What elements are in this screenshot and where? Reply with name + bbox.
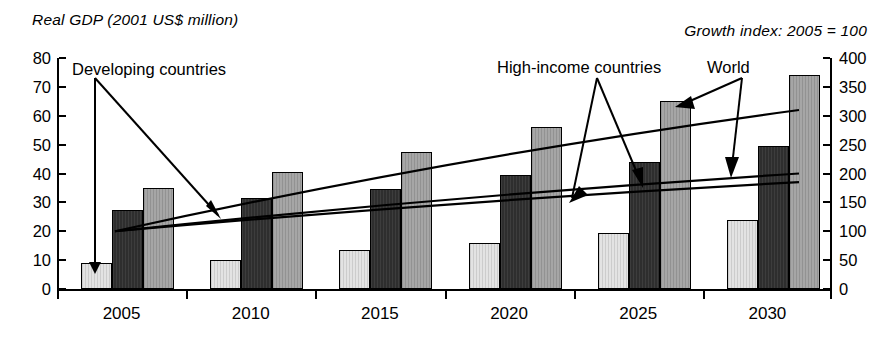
right-tick — [823, 144, 830, 146]
left-tick — [59, 57, 66, 59]
right-tick — [823, 115, 830, 117]
bar-high-income-countries-2015 — [370, 189, 401, 289]
left-tick — [59, 288, 66, 290]
bar-high-income-countries-2010 — [241, 198, 272, 289]
x-label-2015: 2015 — [325, 304, 435, 324]
right-tick — [823, 230, 830, 232]
bar-world-2010 — [272, 172, 303, 289]
annotation-developing-countries: Developing countries — [72, 60, 226, 79]
left-tick — [59, 173, 66, 175]
left-tick-label: 0 — [7, 281, 51, 298]
right-tick — [823, 86, 830, 88]
right-tick-label: 0 — [839, 281, 848, 298]
left-axis-title: Real GDP (2001 US$ million) — [32, 11, 238, 29]
bar-world-2020 — [531, 127, 562, 289]
left-tick — [59, 115, 66, 117]
bar-world-2005 — [143, 188, 174, 289]
annotation-world: World — [707, 58, 750, 77]
bar-high-income-countries-2005 — [112, 210, 143, 289]
left-tick — [59, 201, 66, 203]
bar-world-2025 — [660, 101, 691, 289]
bar-high-income-countries-2020 — [500, 175, 531, 289]
left-tick-label: 50 — [7, 137, 51, 154]
bar-developing-countries-2005 — [81, 263, 112, 289]
x-tick — [703, 291, 705, 299]
x-label-2020: 2020 — [454, 304, 564, 324]
right-tick-label: 50 — [839, 252, 857, 269]
plot-area: 01020304050607080 0501001502002503003504… — [57, 58, 832, 290]
right-tick-label: 350 — [839, 79, 867, 96]
left-tick-label: 10 — [7, 252, 51, 269]
left-axis — [57, 58, 59, 291]
x-tick — [57, 291, 59, 299]
bar-developing-countries-2030 — [727, 220, 758, 289]
left-tick-label: 20 — [7, 223, 51, 240]
right-tick — [823, 259, 830, 261]
x-label-2030: 2030 — [712, 304, 822, 324]
x-tick — [186, 291, 188, 299]
x-tick — [574, 291, 576, 299]
right-tick — [823, 201, 830, 203]
bar-high-income-countries-2030 — [758, 146, 789, 289]
right-tick-label: 150 — [839, 194, 867, 211]
left-tick-label: 40 — [7, 166, 51, 183]
right-tick-label: 250 — [839, 137, 867, 154]
x-tick — [315, 291, 317, 299]
left-tick — [59, 259, 66, 261]
right-tick-label: 100 — [839, 223, 867, 240]
right-axis-title: Growth index: 2005 = 100 — [684, 22, 867, 40]
right-axis — [830, 58, 832, 291]
x-tick — [830, 291, 832, 299]
left-tick — [59, 144, 66, 146]
left-tick — [59, 230, 66, 232]
bar-developing-countries-2020 — [469, 243, 500, 289]
left-tick-label: 30 — [7, 194, 51, 211]
left-tick — [59, 86, 66, 88]
right-tick-label: 200 — [839, 166, 867, 183]
right-tick — [823, 57, 830, 59]
x-tick — [445, 291, 447, 299]
bar-high-income-countries-2025 — [629, 162, 660, 289]
left-tick-label: 70 — [7, 79, 51, 96]
right-tick-label: 300 — [839, 108, 867, 125]
annotation-high-income-countries: High-income countries — [497, 58, 661, 77]
x-label-2025: 2025 — [583, 304, 693, 324]
bar-developing-countries-2015 — [339, 250, 370, 289]
chart-figure: Real GDP (2001 US$ million) Growth index… — [0, 0, 889, 340]
right-tick — [823, 173, 830, 175]
right-tick — [823, 288, 830, 290]
x-label-2005: 2005 — [67, 304, 177, 324]
right-tick-label: 400 — [839, 50, 867, 67]
bar-world-2015 — [401, 152, 432, 289]
bar-world-2030 — [789, 75, 820, 289]
bar-developing-countries-2010 — [210, 260, 241, 289]
left-tick-label: 60 — [7, 108, 51, 125]
left-tick-label: 80 — [7, 50, 51, 67]
bar-developing-countries-2025 — [598, 233, 629, 289]
x-label-2010: 2010 — [196, 304, 306, 324]
